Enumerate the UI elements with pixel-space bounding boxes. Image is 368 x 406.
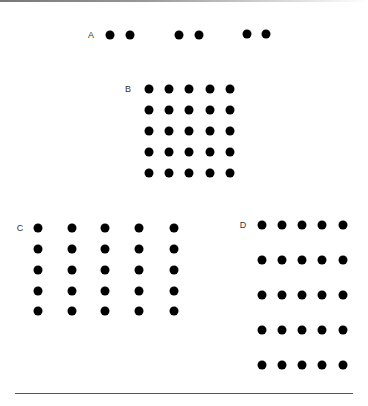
dot (318, 221, 327, 230)
dot (278, 256, 287, 265)
dot (165, 85, 174, 94)
dot (165, 169, 174, 178)
dot (34, 307, 43, 316)
dot (226, 148, 235, 157)
dot (258, 256, 267, 265)
dot (145, 148, 154, 157)
dot (68, 224, 77, 233)
dot (206, 148, 215, 157)
dot (170, 245, 179, 254)
dot (278, 291, 287, 300)
dot (101, 266, 110, 275)
dot (206, 127, 215, 136)
dot (298, 221, 307, 230)
group-label: A (88, 30, 94, 40)
dot (206, 169, 215, 178)
dot (170, 287, 179, 296)
dot (318, 326, 327, 335)
dot (206, 85, 215, 94)
dot (34, 245, 43, 254)
dot (101, 224, 110, 233)
dot (258, 291, 267, 300)
dot (339, 291, 348, 300)
dot (185, 148, 194, 157)
dot (339, 326, 348, 335)
dot (135, 307, 144, 316)
dot (34, 224, 43, 233)
dot (145, 127, 154, 136)
dot (318, 256, 327, 265)
dot (106, 31, 115, 40)
dot (298, 326, 307, 335)
dot (145, 106, 154, 115)
dot (278, 221, 287, 230)
dot (165, 148, 174, 157)
dot (34, 287, 43, 296)
dot (318, 361, 327, 370)
dot (298, 361, 307, 370)
dot (68, 245, 77, 254)
dot (170, 224, 179, 233)
dot (226, 169, 235, 178)
dot (226, 127, 235, 136)
dot (175, 31, 184, 40)
dot (258, 361, 267, 370)
dot (258, 326, 267, 335)
dot (185, 106, 194, 115)
dot (185, 169, 194, 178)
dot (68, 307, 77, 316)
dot (135, 224, 144, 233)
dot (339, 221, 348, 230)
dot (165, 106, 174, 115)
dot (262, 30, 271, 39)
dot (298, 256, 307, 265)
dot (34, 266, 43, 275)
dot (165, 127, 174, 136)
dot (339, 361, 348, 370)
group-label: C (17, 223, 24, 233)
dot (68, 266, 77, 275)
dot (101, 245, 110, 254)
dot (243, 30, 252, 39)
dot (170, 266, 179, 275)
dot (185, 127, 194, 136)
bottom-rule (15, 393, 353, 394)
dot (298, 291, 307, 300)
dot (226, 85, 235, 94)
dot (258, 221, 267, 230)
dot (195, 31, 204, 40)
dot (101, 307, 110, 316)
dot (339, 256, 348, 265)
dot (206, 106, 215, 115)
dot (145, 169, 154, 178)
top-edge (0, 0, 368, 2)
dot (278, 326, 287, 335)
dot (318, 291, 327, 300)
dot (278, 361, 287, 370)
dot (68, 287, 77, 296)
dot (135, 266, 144, 275)
dot (170, 307, 179, 316)
dot (145, 85, 154, 94)
group-label: B (125, 84, 131, 94)
group-label: D (240, 220, 247, 230)
dot (185, 85, 194, 94)
dot (135, 245, 144, 254)
dot (135, 287, 144, 296)
dot (126, 31, 135, 40)
dot (101, 287, 110, 296)
dot (226, 106, 235, 115)
